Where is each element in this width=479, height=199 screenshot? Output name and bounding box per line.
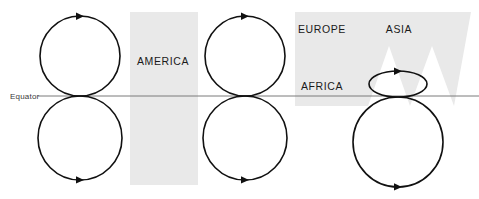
- diagram-canvas: AMERICA EUROPE ASIA AFRICA Equator: [0, 0, 479, 199]
- orbit-circle-right-bottom: [353, 97, 443, 187]
- orbit-group-left: [38, 13, 122, 184]
- label-asia: ASIA: [386, 23, 412, 35]
- arrowhead-right-bottom: [394, 183, 402, 190]
- equator-label: Equator: [10, 92, 40, 101]
- orbit-circle-left-top: [40, 16, 120, 96]
- label-america: AMERICA: [137, 55, 189, 67]
- orbit-circle-middle-top: [205, 16, 285, 96]
- arrowhead-middle-bottom: [241, 176, 249, 183]
- arrowhead-middle-top: [241, 13, 249, 20]
- orbit-equator-diagram: AMERICA EUROPE ASIA AFRICA Equator: [0, 0, 479, 199]
- orbit-group-middle: [203, 13, 287, 184]
- landmass-america: [130, 12, 198, 185]
- orbit-circle-middle-bottom: [203, 96, 287, 180]
- arrowhead-left-bottom: [76, 176, 84, 183]
- orbit-circle-left-bottom: [38, 96, 122, 180]
- label-africa: AFRICA: [301, 80, 343, 92]
- arrowhead-left-top: [76, 13, 84, 20]
- orbit-ellipse-right-top: [369, 71, 427, 97]
- label-europe: EUROPE: [298, 23, 346, 35]
